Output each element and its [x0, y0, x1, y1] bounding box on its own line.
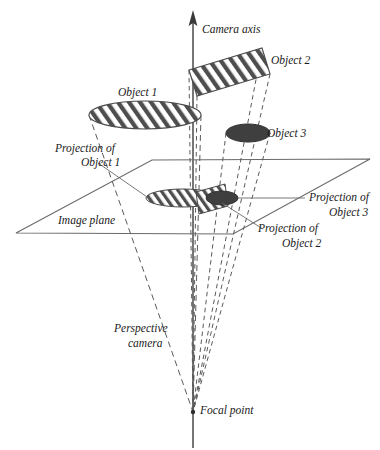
focal-point-marker — [191, 410, 195, 414]
camera-axis-label: Camera axis — [202, 23, 261, 35]
projection-object-3-label: Projection of Object 3 — [308, 191, 371, 219]
svg-text:Object 2: Object 2 — [282, 237, 322, 250]
object-1-label: Object 1 — [118, 86, 157, 99]
object-2-label: Object 2 — [271, 54, 311, 67]
projection-object-1-label: Projection of Object 1 — [54, 142, 120, 169]
projection-object-2-label: Projection of Object 2 — [257, 222, 322, 250]
image-plane-label: Image plane — [57, 214, 115, 227]
projection-rays-object3 — [193, 133, 270, 412]
svg-text:Projection of: Projection of — [54, 142, 117, 155]
svg-text:Object 3: Object 3 — [329, 206, 369, 219]
object-2-shape — [189, 48, 270, 96]
projection-object-3-shape — [206, 191, 238, 205]
diagram-canvas: Camera axis Object 1 Object 2 Object 3 P… — [0, 0, 380, 450]
perspective-projection-diagram: Camera axis Object 1 Object 2 Object 3 P… — [0, 0, 380, 450]
svg-text:Projection of: Projection of — [308, 191, 371, 204]
object-3-label: Object 3 — [267, 127, 307, 140]
perspective-camera-label: Perspective camera — [113, 322, 168, 349]
svg-text:camera: camera — [128, 337, 163, 349]
svg-text:Projection of: Projection of — [257, 222, 320, 235]
leader-projection-object1 — [98, 163, 150, 199]
focal-point-label: Focal point — [199, 404, 254, 417]
object-3-shape — [226, 124, 270, 142]
svg-text:Object 1: Object 1 — [81, 156, 120, 169]
object-1-shape — [89, 101, 201, 129]
svg-text:Perspective: Perspective — [113, 322, 168, 335]
